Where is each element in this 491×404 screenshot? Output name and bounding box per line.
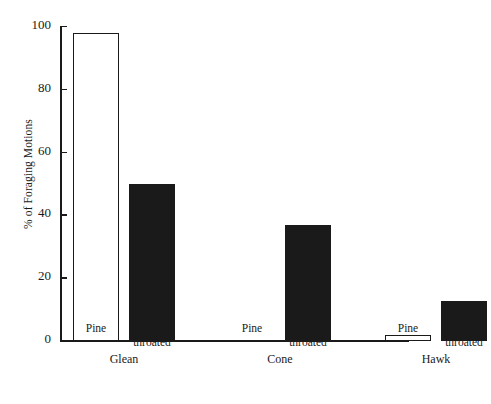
y-axis-line	[60, 26, 62, 341]
y-tick-label: 40	[11, 205, 51, 221]
y-tick-label: 60	[11, 143, 51, 159]
group-label-hawk: Hawk	[386, 352, 486, 367]
y-tick-label: 20	[11, 268, 51, 284]
category-label: Yellow–throated	[273, 322, 343, 349]
y-tick-label: 80	[11, 80, 51, 96]
y-tick-mark	[61, 152, 67, 153]
y-tick-mark	[61, 340, 67, 341]
plot-area: 020406080100	[60, 26, 409, 341]
group-label-cone: Cone	[230, 352, 330, 367]
y-axis-title: % of Foraging Motions	[22, 74, 34, 274]
y-tick-label: 0	[11, 331, 51, 347]
bar-glean-pine	[73, 33, 119, 341]
group-label-glean: Glean	[74, 352, 174, 367]
y-tick-mark	[61, 26, 67, 27]
y-tick-label: 100	[11, 17, 51, 33]
category-label: Yellow–throated	[117, 322, 187, 349]
y-tick-mark	[61, 214, 67, 215]
y-tick-mark	[61, 89, 67, 90]
y-tick-mark	[61, 277, 67, 278]
bar-hawk-pine	[385, 335, 431, 341]
category-label: Yellow–throated	[429, 322, 491, 349]
bar-glean-yellow	[129, 184, 175, 341]
